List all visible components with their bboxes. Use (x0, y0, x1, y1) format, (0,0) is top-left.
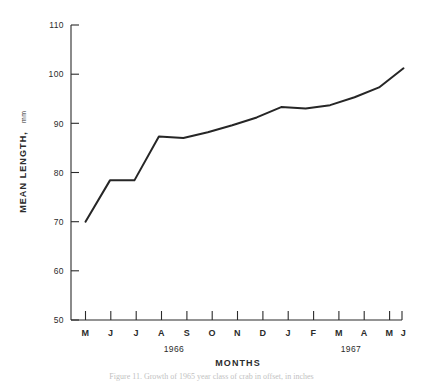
month-label: D (259, 328, 266, 338)
figure-caption: Figure 11. Growth of 1965 year class of … (0, 370, 423, 383)
x-axis-title: MONTHS (215, 358, 261, 368)
y-tick-label: 70 (54, 217, 64, 227)
y-tick-label: 50 (54, 315, 64, 325)
month-label: J (108, 328, 114, 338)
month-label: M (386, 328, 394, 338)
month-label: A (158, 328, 165, 338)
y-tick-label: 100 (49, 69, 64, 79)
y-axis-ticks (71, 25, 79, 320)
month-label: J (401, 328, 407, 338)
y-tick-label: 80 (54, 168, 64, 178)
month-label: M (82, 328, 90, 338)
data-series-line (86, 68, 404, 221)
year-label-1967: 1967 (341, 344, 362, 354)
y-tick-label: 90 (54, 119, 64, 129)
x-axis-year-labels: 1966 1967 (164, 344, 362, 354)
line-chart: 110 100 90 80 70 60 50 M (0, 0, 423, 383)
figure-container: 110 100 90 80 70 60 50 M (0, 0, 423, 383)
y-tick-label: 60 (54, 266, 64, 276)
month-label: A (361, 328, 368, 338)
month-label: O (208, 328, 216, 338)
month-label: F (311, 328, 317, 338)
x-axis-month-labels: M J J A S O N D J F M A M J (82, 328, 407, 338)
y-axis-unit: mm (20, 111, 27, 123)
month-label: S (184, 328, 191, 338)
y-axis-title: MEAN LENGTH, (18, 131, 28, 213)
month-label: M (335, 328, 343, 338)
year-label-1966: 1966 (164, 344, 185, 354)
y-axis-title-group: MEAN LENGTH, mm (18, 111, 28, 213)
y-tick-label: 110 (49, 20, 64, 30)
y-axis-tick-labels: 110 100 90 80 70 60 50 (49, 20, 64, 325)
x-axis-ticks (86, 311, 403, 320)
month-label: J (285, 328, 291, 338)
month-label: N (234, 328, 241, 338)
month-label: J (133, 328, 139, 338)
